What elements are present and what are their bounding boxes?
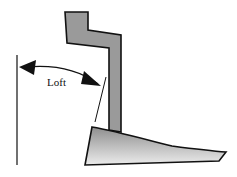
club-shaft-hosel: [65, 12, 121, 132]
club-head: [85, 127, 226, 165]
loft-diagram: [0, 0, 237, 177]
arrowhead-right-icon: [81, 71, 101, 86]
arrowhead-left-icon: [19, 60, 36, 75]
loft-label: Loft: [47, 76, 66, 88]
